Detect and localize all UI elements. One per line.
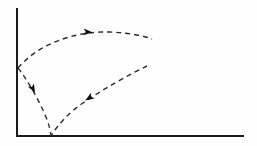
diagram-background [0,0,257,146]
phase-portrait-diagram [0,0,257,146]
diagram-canvas [0,0,257,146]
